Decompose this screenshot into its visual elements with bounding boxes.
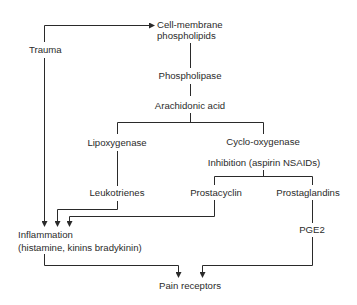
edge-trauma-cellmembrane [45, 26, 155, 43]
node-cyclooxygenase-line1: Cyclo-oxygenase [226, 136, 300, 148]
node-lipoxygenase: Lipoxygenase [87, 137, 146, 149]
node-inflammation-line2: (histamine, kinins bradykinin) [18, 242, 142, 254]
node-cell-membrane-line2: phospholipids [157, 30, 216, 42]
flowchart-diagram: Trauma Cell-membrane phospholipids Phosp… [0, 0, 357, 305]
node-prostaglandins: Prostaglandins [276, 187, 339, 199]
node-cell-membrane-line1: Cell-membrane [157, 19, 223, 31]
node-inflammation-line1: Inflammation [18, 229, 73, 241]
edge-inflammation-pain [45, 254, 179, 277]
edge-pge2-pain [203, 237, 313, 277]
edge-prostacyclin-inflammation [70, 200, 215, 226]
node-arachidonic-acid: Arachidonic acid [155, 100, 225, 112]
edge-leukotrienes-inflammation [58, 201, 118, 226]
node-trauma: Trauma [29, 44, 62, 56]
node-prostacyclin: Prostacyclin [190, 187, 242, 199]
node-phospholipase: Phospholipase [159, 70, 222, 82]
node-pain-receptors: Pain receptors [159, 280, 221, 292]
edge-arachidonic-branch [118, 123, 264, 135]
node-cyclooxygenase-line2: Inhibition (aspirin NSAIDs) [208, 157, 321, 169]
node-pge2: PGE2 [299, 224, 325, 236]
node-leukotrienes: Leukotrienes [90, 187, 145, 199]
edge-cyclo-branch [215, 177, 313, 186]
